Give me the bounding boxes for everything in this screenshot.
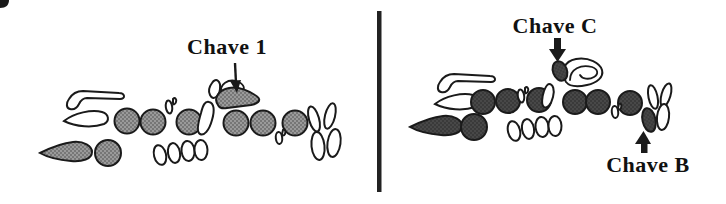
shaded-cell	[95, 140, 121, 166]
petal-cell	[310, 131, 326, 160]
dark-teardrop-cell	[410, 116, 462, 135]
dark-petal-cell	[640, 107, 658, 133]
dark-cell	[461, 114, 487, 140]
shaded-cell	[115, 109, 140, 134]
petal-cell	[306, 105, 323, 133]
chave-b-label: Chave B	[588, 153, 708, 176]
chave-c-arrow-icon	[549, 38, 566, 62]
petal-cell	[646, 84, 660, 109]
chave-1-label: Chave 1	[167, 35, 287, 58]
shaded-cell	[251, 111, 276, 136]
panel-divider	[377, 11, 382, 192]
shaded-cell	[224, 111, 249, 136]
dark-cell	[496, 89, 520, 113]
oval-cell-group	[152, 140, 208, 166]
chave-c-label: Chave C	[495, 14, 615, 37]
petal-cell	[322, 102, 338, 130]
petal-cell-cluster	[306, 102, 343, 160]
dark-cell	[618, 91, 642, 115]
dark-cell	[563, 90, 587, 114]
dark-cell	[586, 90, 610, 114]
shaded-cell	[141, 110, 166, 135]
narrow-loop-cell	[542, 84, 554, 108]
chave-c-target-cluster	[550, 59, 602, 87]
chave-b-target-cluster	[640, 82, 673, 133]
left-panel	[40, 63, 342, 166]
narrow-loop-cell	[198, 102, 214, 135]
right-panel	[410, 38, 674, 153]
small-bud-cell	[165, 98, 176, 114]
dark-cell	[471, 90, 495, 114]
petal-cell	[326, 128, 343, 158]
small-bud-cell	[275, 130, 285, 145]
shaded-teardrop-cell	[40, 142, 92, 161]
corner-mark	[0, 0, 9, 8]
oval-cell-group	[506, 116, 562, 142]
figure-canvas: Chave 1 Chave C Chave B	[0, 0, 726, 204]
chave-b-arrow-icon	[635, 131, 651, 153]
